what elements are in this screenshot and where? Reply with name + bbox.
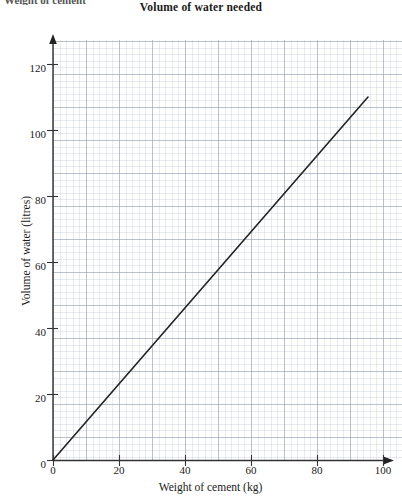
x-tick-20: 20 xyxy=(99,465,139,476)
x-tick-60: 60 xyxy=(231,465,271,476)
x-axis-title: Weight of cement (kg) xyxy=(53,481,368,493)
x-tick-40: 40 xyxy=(165,465,205,476)
x-axis-tick-labels: 0 20 40 60 80 100 xyxy=(0,0,402,499)
x-tick-100: 100 xyxy=(363,465,402,476)
x-tick-80: 80 xyxy=(297,465,337,476)
x-tick-0: 0 xyxy=(33,465,73,476)
y-axis-title: Volume of water (litres) xyxy=(20,156,32,346)
